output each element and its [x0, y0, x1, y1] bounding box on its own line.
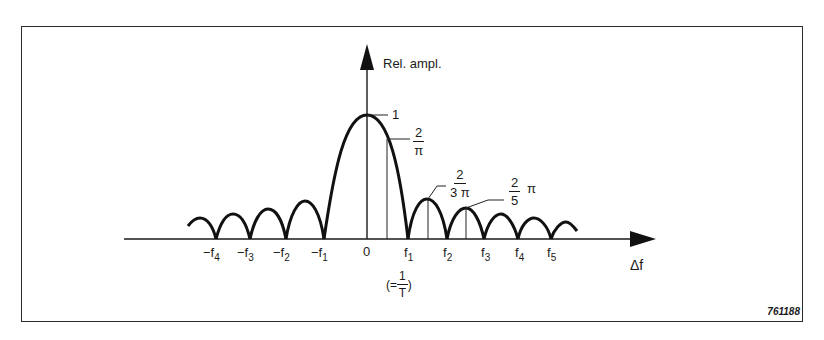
two-over-pi-label: 2 π: [413, 126, 424, 157]
y-axis-arrow-icon: [360, 44, 374, 70]
tick-neg-f1: −f1: [311, 246, 328, 259]
two-over-5pi-label: 2 5: [509, 176, 520, 207]
tick-neg-f4: −f4: [203, 246, 220, 259]
tick-neg-f3: −f3: [237, 246, 254, 259]
tick-zero: 0: [363, 245, 370, 258]
tick-f2: f2: [443, 246, 452, 259]
f1-note: (= 1 T ): [386, 270, 412, 299]
tick-f4: f4: [515, 246, 524, 259]
tick-f1: f1: [404, 246, 413, 259]
figure-number: 761188: [767, 306, 800, 317]
x-axis-arrow-icon: [630, 231, 656, 247]
peak-label: 1: [392, 108, 399, 121]
spectrum-plot: [0, 0, 824, 340]
tick-neg-f2: −f2: [273, 246, 290, 259]
y-axis-label: Rel. ampl.: [383, 57, 442, 70]
x-axis-label: Δf: [630, 258, 643, 272]
two-over-5pi-suffix: π: [527, 182, 536, 195]
tick-f3: f3: [481, 246, 490, 259]
tick-f5: f5: [547, 246, 556, 259]
two-over-3pi-label: 2 3 π: [450, 168, 470, 199]
